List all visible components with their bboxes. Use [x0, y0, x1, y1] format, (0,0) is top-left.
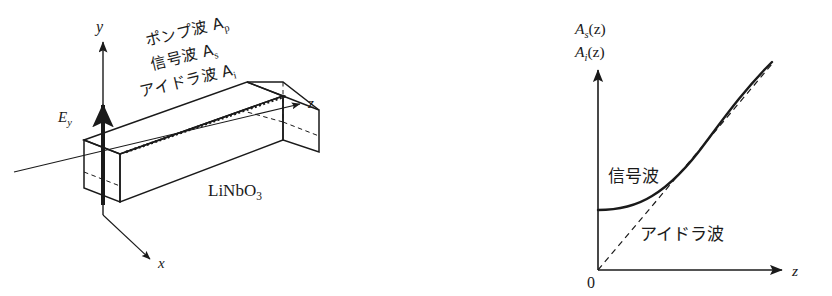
plot-ylabel-signal: As(z)	[574, 20, 606, 40]
curve-label-signal: 信号波	[608, 166, 659, 186]
box-top-face	[84, 82, 283, 154]
box-front-face	[120, 96, 283, 202]
axis-z: z	[14, 95, 314, 172]
crystal-panel: z y x	[0, 0, 440, 296]
curve-signal-solid	[598, 62, 772, 210]
plot-axis-x: z 0	[587, 262, 798, 291]
field-vector-Ey: Ey	[57, 105, 103, 205]
box-hidden-edge-right-back	[247, 112, 283, 122]
material-label: LiNbO3	[208, 181, 262, 202]
crystal-box	[84, 82, 319, 202]
axis-y-label: y	[94, 18, 104, 36]
figure-root: z y x	[0, 0, 832, 296]
field-label-Ey: Ey	[57, 109, 72, 128]
axis-x: x	[103, 215, 165, 271]
plot-ylabel-idler: Ai(z)	[574, 43, 605, 63]
gain-panel: As(z) Ai(z) z 0 信号波 アイドラ波	[440, 0, 832, 296]
axis-x-label: x	[157, 255, 165, 271]
box-top-right-edge	[247, 82, 283, 96]
plot-axis-y: As(z) Ai(z)	[574, 20, 606, 270]
box-hidden-edge-right-diag	[283, 122, 319, 136]
curve-label-idler: アイドラ波	[640, 224, 724, 244]
plot-origin-label: 0	[587, 274, 595, 291]
gain-svg: As(z) Ai(z) z 0 信号波 アイドラ波	[440, 0, 832, 296]
plot-xlabel: z	[791, 262, 798, 279]
crystal-svg: z y x	[0, 0, 440, 296]
